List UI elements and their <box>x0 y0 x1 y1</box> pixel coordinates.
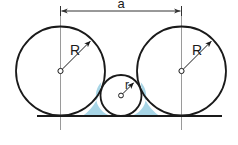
label-radius-big-left: R <box>70 42 80 58</box>
center-dot-small <box>119 93 124 98</box>
label-radius-small: r <box>125 78 129 92</box>
dimension-span-a: a <box>61 0 182 16</box>
label-radius-big-right: R <box>192 42 202 58</box>
center-dot-big-left <box>58 68 63 73</box>
diagram-canvas: a R R r <box>0 0 238 145</box>
geometry-diagram: a R R r <box>0 0 238 145</box>
center-dot-big-right <box>179 68 184 73</box>
label-span-a: a <box>117 0 125 11</box>
circles-group <box>16 27 226 117</box>
